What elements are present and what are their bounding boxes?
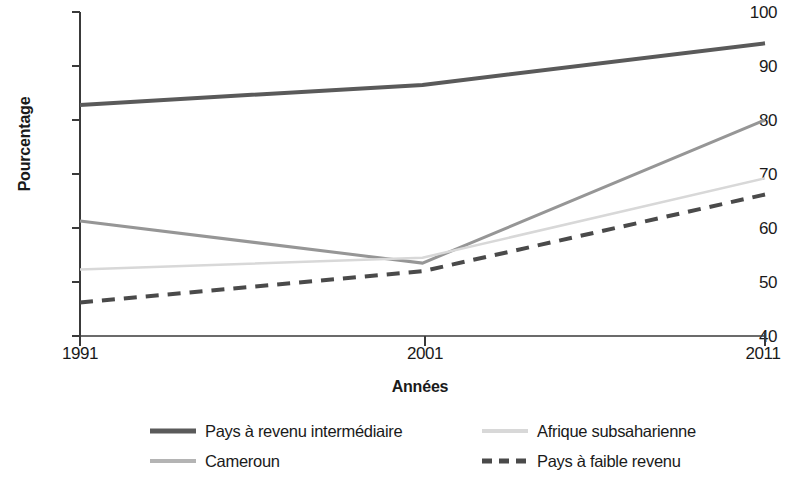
legend-item-afrique-subsaharienne: Afrique subsaharienne	[482, 422, 770, 441]
legend-item-cameroun: Cameroun	[150, 452, 482, 471]
legend-swatch-solid-icon	[482, 424, 528, 438]
series-line	[80, 195, 765, 303]
series-line	[80, 43, 765, 105]
legend-swatch-dashed-icon	[482, 454, 528, 468]
legend-item-pays-a-faible-revenu: Pays à faible revenu	[482, 452, 770, 471]
x-tick-label-2001: 2001	[380, 345, 470, 362]
legend-label: Pays à faible revenu	[537, 452, 681, 471]
chart-legend: Pays à revenu intermédiaire Afrique subs…	[150, 416, 770, 476]
legend-swatch-solid-icon	[150, 424, 196, 438]
axis-lines	[72, 12, 765, 346]
legend-row-2: Cameroun Pays à faible revenu	[150, 446, 770, 476]
legend-item-pays-a-revenu-intermediaire: Pays à revenu intermédiaire	[150, 422, 482, 441]
x-tick-label-2011: 2011	[718, 345, 785, 362]
x-tick-label-1991: 1991	[35, 345, 125, 362]
series-line	[80, 178, 765, 269]
x-axis-title: Années	[0, 378, 785, 396]
legend-label: Afrique subsaharienne	[537, 422, 696, 441]
legend-label: Cameroun	[205, 452, 280, 471]
data-series-layer	[80, 43, 765, 302]
legend-label: Pays à revenu intermédiaire	[205, 422, 402, 441]
legend-row-1: Pays à revenu intermédiaire Afrique subs…	[150, 416, 770, 446]
legend-swatch-solid-icon	[150, 454, 196, 468]
series-line	[80, 120, 765, 263]
